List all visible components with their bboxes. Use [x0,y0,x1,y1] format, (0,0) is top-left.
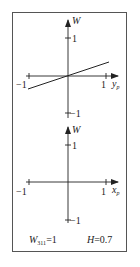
bottom-x-tick-label-m1: −1 [16,186,27,197]
top-x-tick-label-1: 1 [101,79,106,90]
bottom-chart: W 1 −1 −1 1 xp [16,124,119,226]
param-w311: W311=1 [29,234,57,246]
param-h: H=0.7 [86,234,112,245]
bottom-w-label: W [72,124,82,135]
parameter-legend: W311=1 H=0.7 [29,234,112,246]
top-x-label: yp [111,78,119,90]
top-data-line [28,62,109,89]
bottom-x-label: xp [111,184,119,196]
bottom-tick-label-m1: −1 [70,215,81,226]
top-w-label: W [72,15,82,26]
top-tick-label-1: 1 [72,33,77,44]
top-chart: W 1 −1 −1 1 yp [16,15,119,119]
top-x-tick-label-m1: −1 [16,79,27,90]
top-tick-label-m1: −1 [70,108,81,119]
bottom-tick-label-1: 1 [72,140,77,151]
bottom-x-tick-label-1: 1 [101,186,106,197]
figure-svg: W 1 −1 −1 1 yp W 1 −1 −1 1 xp W311=1 H=0… [0,0,140,267]
